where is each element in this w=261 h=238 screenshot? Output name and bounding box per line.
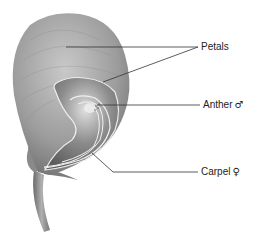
anther-highlight <box>84 103 96 113</box>
male-symbol-icon: ♂ <box>234 99 243 110</box>
label-petals: Petals <box>201 41 229 53</box>
flower-illustration <box>0 0 261 238</box>
label-carpel: Carpel♀ <box>201 166 240 178</box>
label-anther: Anther♂ <box>203 99 243 111</box>
label-text: Anther <box>203 99 232 110</box>
label-text: Petals <box>201 41 229 52</box>
female-symbol-icon: ♀ <box>232 166 239 177</box>
label-text: Carpel <box>201 166 230 177</box>
carpel-leader <box>92 153 198 172</box>
stem <box>33 170 50 232</box>
